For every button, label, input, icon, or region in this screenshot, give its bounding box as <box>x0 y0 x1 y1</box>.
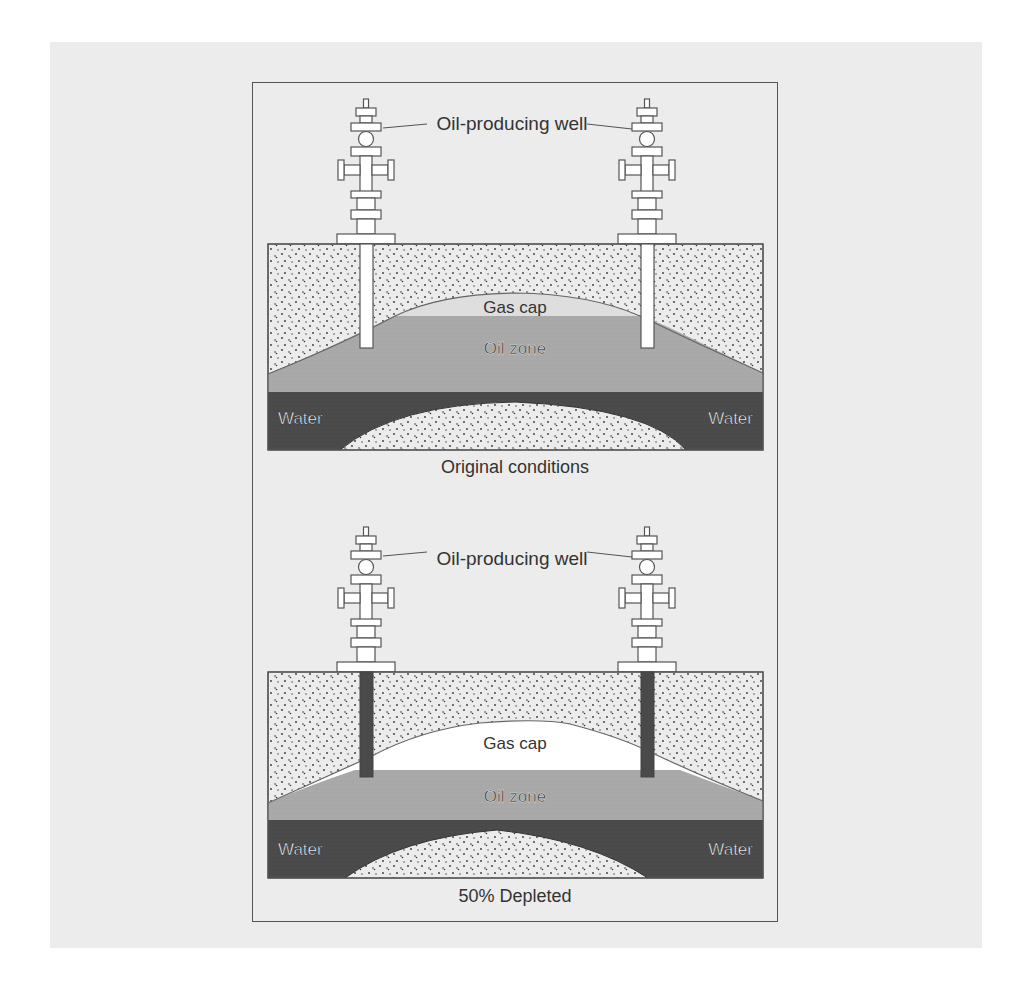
well-label: Oil-producing well <box>436 113 587 134</box>
well-pipe-left <box>360 244 373 348</box>
wellhead-right-icon <box>618 527 676 672</box>
water-label-left: Water <box>278 409 323 428</box>
reservoir-diagram: Oil-producing well Gas cap Oil zone Wate… <box>0 0 1033 982</box>
water-label-right: Water <box>708 840 753 859</box>
wellhead-left-icon <box>337 527 395 672</box>
well-pipe-right <box>641 244 654 348</box>
water-label-left: Water <box>278 840 323 859</box>
water-label-right: Water <box>708 409 753 428</box>
wellhead-left-icon <box>337 99 395 244</box>
panel-original: Oil-producing well Gas cap Oil zone Wate… <box>268 99 763 477</box>
well-label: Oil-producing well <box>436 548 587 569</box>
panel-depleted: Oil-producing well Gas cap Oil zone Wate… <box>268 527 763 906</box>
wellhead-right-icon <box>618 99 676 244</box>
caption-depleted: 50% Depleted <box>458 886 571 906</box>
well-pipe-right <box>641 672 654 777</box>
well-pipe-left <box>360 672 373 777</box>
oil-zone-label: Oil zone <box>484 787 546 806</box>
gas-cap-label: Gas cap <box>483 298 546 317</box>
leader-line-left <box>383 552 427 556</box>
oil-zone-label: Oil zone <box>484 339 546 358</box>
gas-cap-label: Gas cap <box>483 734 546 753</box>
leader-line-right <box>587 124 632 129</box>
leader-line-right <box>587 552 632 557</box>
leader-line-left <box>383 124 427 128</box>
caption-original: Original conditions <box>441 457 589 477</box>
